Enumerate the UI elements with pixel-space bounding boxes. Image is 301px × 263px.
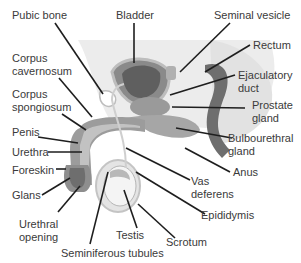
label-testis: Testis [116,229,144,241]
male-reproductive-anatomy-diagram: Pubic bone Bladder Seminal vesicle Rectu… [0,0,301,263]
label-bulbourethral-gland-line1: Bulbourethral [228,132,293,144]
label-corpus-cavernosum-line2: cavernosum [12,65,72,77]
label-anus: Anus [233,166,258,178]
label-urethral-opening-line2: opening [19,231,58,243]
label-corpus-spongiosum-line1: Corpus [12,88,47,100]
label-scrotum: Scrotum [166,236,207,248]
label-epididymis: Epididymis [201,209,254,221]
label-prostate-gland-line1: Prostate [252,99,293,111]
label-corpus-cavernosum-line1: Corpus [12,52,47,64]
label-corpus-spongiosum-line2: spongiosum [12,101,71,113]
label-urethra: Urethra [12,146,49,158]
label-bulbourethral-gland-line2: gland [228,145,255,157]
label-vas-deferens-line1: Vas [191,175,209,187]
label-urethral-opening-line1: Urethral [19,218,58,230]
label-foreskin: Foreskin [12,164,54,176]
label-ejaculatory-duct-line1: Ejaculatory [238,69,292,81]
label-rectum: Rectum [253,39,291,51]
label-ejaculatory-duct-line2: duct [238,82,259,94]
label-glans: Glans [12,189,41,201]
label-prostate-gland-line2: gland [252,112,279,124]
label-penis: Penis [12,126,40,138]
label-seminal-vesicle: Seminal vesicle [214,9,290,21]
label-pubic-bone: Pubic bone [12,9,67,21]
label-seminiferous-tubules: Seminiferous tubules [61,247,164,259]
label-vas-deferens-line2: deferens [191,188,234,200]
label-bladder: Bladder [116,9,154,21]
